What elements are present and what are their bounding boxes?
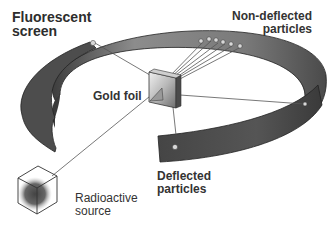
label-radioactive-source: Radioactive source: [75, 192, 138, 218]
gold-foil: [149, 69, 181, 108]
label-gold-foil: Gold foil: [93, 90, 142, 103]
radioactive-source: [18, 166, 57, 214]
label-non-deflected-particles: Non-deflected particles: [232, 10, 312, 36]
label-fluorescent-screen: Fluorescent screen: [12, 10, 91, 38]
label-deflected-particles: Deflected particles: [157, 170, 211, 196]
